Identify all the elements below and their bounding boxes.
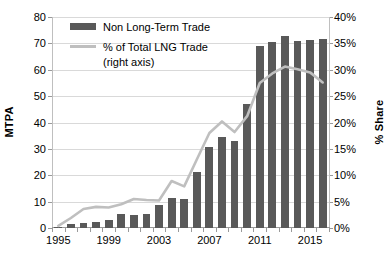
tick-mark-x <box>304 228 305 232</box>
y-axis-right-tick-label: 5% <box>334 196 364 208</box>
tick-mark-x <box>178 228 179 232</box>
tick-mark-x <box>279 228 280 232</box>
x-axis-tick-label: 2007 <box>189 234 229 246</box>
y-axis-left-title: MTPA <box>3 98 15 146</box>
tick-mark-x <box>291 228 292 232</box>
legend-item-bar: Non Long-Term Trade <box>70 18 210 35</box>
x-axis-tick-label: 2015 <box>290 234 330 246</box>
tick-mark-x <box>165 228 166 232</box>
y-axis-left-tick-label: 60 <box>24 64 46 76</box>
tick-mark-x <box>266 228 267 232</box>
tick-mark-x <box>65 228 66 232</box>
y-axis-left-tick-label: 50 <box>24 90 46 102</box>
chart-legend: Non Long-Term Trade % of Total LNG Trade… <box>70 18 210 70</box>
tick-mark-x <box>191 228 192 232</box>
tick-mark-x <box>140 228 141 232</box>
axis-line-right <box>329 17 330 228</box>
tick-mark-x <box>228 228 229 232</box>
x-axis-tick-label: 1995 <box>38 234 78 246</box>
x-axis-tick-label: 2011 <box>240 234 280 246</box>
y-axis-right-tick-label: 25% <box>334 90 364 102</box>
tick-mark-x <box>102 228 103 232</box>
tick-mark-x <box>77 228 78 232</box>
legend-sublabel: (right axis) <box>103 55 210 70</box>
y-axis-right-tick-label: 40% <box>334 11 364 23</box>
y-axis-right-tick-label: 30% <box>334 64 364 76</box>
tick-mark-x <box>153 228 154 232</box>
y-axis-left-tick-label: 70 <box>24 37 46 49</box>
tick-mark-x <box>241 228 242 232</box>
tick-mark-x <box>52 228 53 232</box>
y-axis-left-tick-label: 30 <box>24 143 46 155</box>
x-axis-tick-label: 2003 <box>139 234 179 246</box>
y-axis-right-tick-label: 0% <box>334 222 364 234</box>
line-path <box>58 67 322 226</box>
legend-bar-swatch-icon <box>70 23 96 30</box>
chart-container: MTPA % Share 01020304050607080 0%5%10%15… <box>0 0 389 261</box>
legend-line-swatch-icon <box>70 45 96 48</box>
y-axis-right-tick-label: 15% <box>334 143 364 155</box>
y-axis-right-tick-label: 10% <box>334 169 364 181</box>
y-axis-right-tick-label: 20% <box>334 117 364 129</box>
legend-label-line: % of Total LNG Trade <box>103 41 208 53</box>
tick-mark-x <box>115 228 116 232</box>
tick-mark-x <box>128 228 129 232</box>
y-axis-left-tick-label: 10 <box>24 196 46 208</box>
tick-mark-x <box>90 228 91 232</box>
tick-mark-x <box>203 228 204 232</box>
tick-mark-x <box>216 228 217 232</box>
tick-mark-x <box>316 228 317 232</box>
y-axis-left-tick-label: 40 <box>24 117 46 129</box>
x-axis-tick-label: 1999 <box>89 234 129 246</box>
tick-mark-x <box>253 228 254 232</box>
legend-item-line: % of Total LNG Trade <box>70 38 210 55</box>
y-axis-left-tick-label: 80 <box>24 11 46 23</box>
y-axis-left-tick-label: 0 <box>24 222 46 234</box>
tick-mark-x <box>329 228 330 232</box>
y-axis-right-tick-label: 35% <box>334 37 364 49</box>
y-axis-right-title: % Share <box>373 92 385 152</box>
y-axis-left-tick-label: 20 <box>24 169 46 181</box>
legend-label-bar: Non Long-Term Trade <box>103 21 210 33</box>
